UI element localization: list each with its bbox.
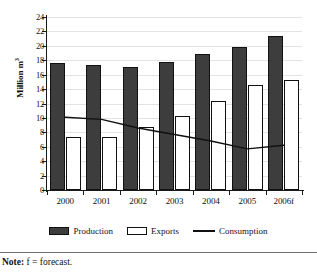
y-tick-label: 24 [36, 13, 44, 21]
x-tick-mark [120, 191, 121, 195]
chart-legend: Production Exports Consumption [0, 226, 317, 236]
x-tick-mark [156, 191, 157, 195]
x-tick-label: 2003 [156, 196, 192, 206]
y-tick-label: 8 [40, 128, 44, 136]
note-prefix: Note: [2, 257, 24, 267]
legend-item-exports: Exports [127, 226, 179, 236]
x-tick-mark [266, 191, 267, 195]
legend-item-consumption: Consumption [193, 226, 268, 236]
x-tick-label: 2004 [193, 196, 229, 206]
x-tick-label: 2005 [229, 196, 265, 206]
y-tick-label: 10 [36, 114, 44, 122]
y-tick-label: 12 [36, 100, 44, 108]
y-axis-title-text: Million m [15, 61, 25, 98]
x-tick-mark [83, 191, 84, 195]
x-tick-mark [47, 191, 48, 195]
x-tick-label: 2001 [83, 196, 119, 206]
legend-swatch-consumption-icon [193, 227, 215, 235]
x-tick-label: 2002 [120, 196, 156, 206]
legend-item-production: Production [49, 226, 113, 236]
y-tick-label: 14 [36, 85, 44, 93]
y-axis-title: Million m3 [13, 33, 25, 123]
y-tick-label: 4 [40, 157, 44, 165]
y-tick-label: 6 [40, 143, 44, 151]
legend-swatch-production-icon [49, 227, 69, 235]
y-tick-label: 0 [40, 186, 44, 194]
x-tick-mark [229, 191, 230, 195]
legend-label-production: Production [73, 226, 113, 236]
y-tick-label: 2 [40, 172, 44, 180]
legend-swatch-exports-icon [127, 227, 147, 235]
note-divider [0, 252, 317, 253]
y-tick-label: 18 [36, 56, 44, 64]
y-tick-label: 22 [36, 27, 44, 35]
x-tick-label: 2006f [266, 196, 302, 206]
x-tick-label: 2000 [47, 196, 83, 206]
chart-figure: 024681012141618202224 Million m3 2000200… [0, 0, 317, 272]
y-tick-label: 20 [36, 42, 44, 50]
y-axis-title-exponent: 3 [13, 58, 20, 61]
plot-area [47, 17, 302, 190]
y-tick-label: 16 [36, 71, 44, 79]
x-tick-mark [302, 191, 303, 195]
legend-label-consumption: Consumption [219, 226, 268, 236]
x-tick-mark [193, 191, 194, 195]
consumption-line [47, 17, 302, 190]
legend-label-exports: Exports [151, 226, 179, 236]
note-text: f = forecast. [24, 257, 72, 267]
note: Note: f = forecast. [2, 257, 72, 267]
